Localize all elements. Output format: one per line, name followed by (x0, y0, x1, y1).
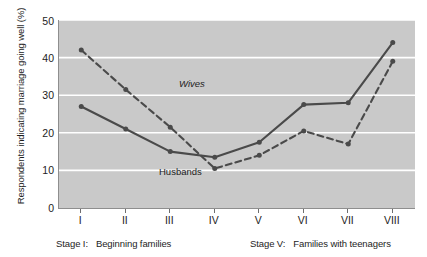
series-line-husbands (81, 43, 393, 158)
caption-stage-5-key: Stage V: (250, 238, 285, 249)
y-tick-20: 20 (30, 128, 54, 138)
x-tick-label-I: I (79, 214, 82, 226)
x-tick-label-VI: VI (298, 214, 308, 226)
data-point-husbands-VII (346, 100, 351, 105)
data-point-husbands-VI (301, 102, 306, 107)
data-point-husbands-II (123, 127, 128, 132)
data-point-husbands-I (79, 104, 84, 109)
chart-canvas (59, 20, 415, 208)
x-tick-label-III: III (165, 214, 174, 226)
x-tick-label-V: V (255, 214, 262, 226)
y-axis-tick-labels: 50 40 30 20 10 0 (30, 0, 54, 257)
data-point-wives-VII (346, 142, 351, 147)
data-point-husbands-VIII (390, 40, 395, 45)
x-tick-mark-II (125, 209, 126, 213)
data-series-layer (79, 40, 396, 171)
series-label-husbands: Husbands (159, 166, 202, 177)
x-tick-mark-VII (347, 209, 348, 213)
data-point-husbands-V (257, 140, 262, 145)
data-point-wives-V (257, 153, 262, 158)
x-tick-mark-I (80, 209, 81, 213)
x-tick-mark-IV (214, 209, 215, 213)
series-label-wives: Wives (179, 78, 205, 89)
x-tick-mark-V (258, 209, 259, 213)
plot-area: Wives Husbands (58, 20, 415, 208)
data-point-wives-I (79, 48, 84, 53)
x-tick-label-VIII: VIII (384, 214, 400, 226)
x-axis-tick-labels: IIIIIIIVVVIVIIVIII (58, 209, 414, 231)
data-point-wives-VI (301, 128, 306, 133)
caption-stage-5-text: Families with teenagers (293, 238, 391, 249)
data-point-wives-II (123, 87, 128, 92)
x-tick-mark-VI (303, 209, 304, 213)
data-point-wives-III (168, 125, 173, 130)
x-tick-label-II: II (122, 214, 128, 226)
data-point-husbands-IV (212, 155, 217, 160)
y-tick-30: 30 (30, 90, 54, 100)
y-axis-title: Respondents indicating marriage going we… (14, 6, 28, 206)
caption-stage-1-text: Beginning families (96, 238, 171, 249)
gridlines (59, 20, 415, 170)
x-tick-mark-VIII (392, 209, 393, 213)
y-tick-50: 50 (30, 16, 54, 26)
y-tick-10: 10 (30, 165, 54, 175)
data-point-wives-IV (212, 166, 217, 171)
data-point-husbands-III (168, 149, 173, 154)
x-tick-mark-III (169, 209, 170, 213)
chart-figure: Respondents indicating marriage going we… (0, 0, 427, 257)
x-tick-label-IV: IV (209, 214, 219, 226)
x-tick-label-VII: VII (341, 214, 354, 226)
data-point-wives-VIII (390, 59, 395, 64)
caption-stage-5: Stage V:Families with teenagers (250, 238, 391, 249)
y-tick-0: 0 (30, 203, 54, 213)
caption-stage-1-key: Stage I: (56, 238, 88, 249)
y-tick-40: 40 (30, 53, 54, 63)
caption-stage-1: Stage I:Beginning families (56, 238, 171, 249)
